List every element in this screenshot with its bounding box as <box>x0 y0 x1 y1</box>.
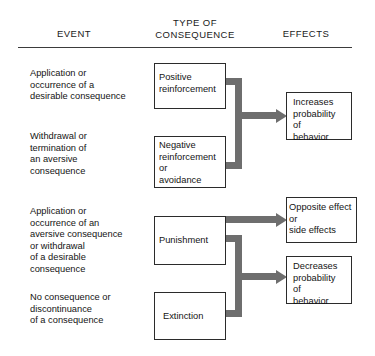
box-extinction-label: Extinction <box>163 311 203 323</box>
box-punishment-label: Punishment <box>159 235 208 247</box>
event-text-negative-reinforcement: Withdrawal or termination of an aversive… <box>30 131 152 177</box>
box-punishment: Punishment <box>154 216 226 265</box>
box-opposite-effect: Opposite effect or side effects <box>286 197 357 243</box>
contingency-diagram: EVENT TYPE OF CONSEQUENCE EFFECTS Applic… <box>0 0 375 356</box>
column-header-type-of-consequence: TYPE OF CONSEQUENCE <box>140 17 250 40</box>
box-negative-reinforcement: Negative reinforcement or avoidance <box>154 136 226 188</box>
box-extinction: Extinction <box>154 292 226 340</box>
box-negative-reinforcement-label: Negative reinforcement or avoidance <box>159 140 216 186</box>
connector-reinforcement-merge-bar <box>235 78 242 169</box>
column-header-effects: EFFECTS <box>258 28 354 40</box>
connector-to-decreases <box>235 273 278 280</box>
box-decreases-probability-label: Decreases probability of behavior <box>293 261 337 307</box>
box-positive-reinforcement-label: Positive reinforcement <box>159 72 216 95</box>
column-header-event: EVENT <box>18 28 130 40</box>
event-text-positive-reinforcement: Application or occurrence of a desirable… <box>30 68 152 103</box>
header-divider-rule <box>18 47 352 48</box>
box-increases-probability: Increases probability of behavior <box>286 92 352 140</box>
event-text-extinction: No consequence or discontinuance of a co… <box>30 292 152 327</box>
connector-punishment-to-opposite <box>224 216 278 223</box>
box-increases-probability-label: Increases probability of behavior <box>293 97 335 143</box>
box-decreases-probability: Decreases probability of behavior <box>286 256 352 304</box>
event-text-punishment: Application or occurrence of an aversive… <box>30 206 152 276</box>
box-opposite-effect-label: Opposite effect or side effects <box>289 202 351 237</box>
box-positive-reinforcement: Positive reinforcement <box>154 63 226 109</box>
connector-to-increases <box>235 112 278 119</box>
